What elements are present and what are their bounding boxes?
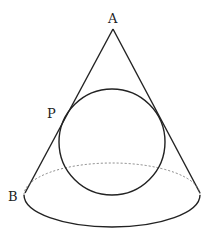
inscribed-sphere bbox=[59, 89, 165, 195]
cone-sphere-diagram: A P B bbox=[0, 0, 212, 241]
cone-right-side bbox=[113, 29, 200, 193]
label-apex-a: A bbox=[107, 11, 118, 26]
base-ellipse-back bbox=[24, 163, 200, 195]
label-base-b: B bbox=[8, 189, 18, 204]
label-tangent-p: P bbox=[47, 106, 56, 121]
base-ellipse-front bbox=[24, 195, 200, 227]
